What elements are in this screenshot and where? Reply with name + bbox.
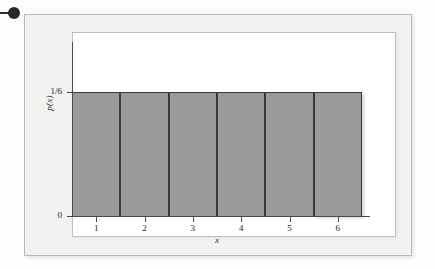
bullet-point-marker [8,7,20,19]
figure-root: 01/6 123456 p(x) x [0,0,435,269]
plot-panel [72,32,396,237]
